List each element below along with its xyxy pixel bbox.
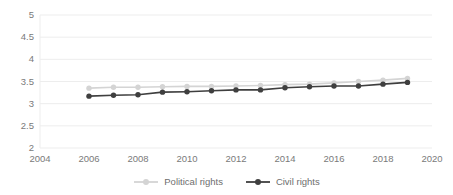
data-point-marker xyxy=(331,83,336,88)
y-axis-tick-label: 4 xyxy=(0,54,34,64)
x-axis-tick-label: 2010 xyxy=(165,154,209,164)
x-axis-tick-label: 2006 xyxy=(67,154,111,164)
data-point-marker xyxy=(258,87,263,92)
x-axis-tick-label: 2014 xyxy=(263,154,307,164)
data-point-marker xyxy=(135,92,140,97)
y-axis-tick-label: 5 xyxy=(0,10,34,20)
line-chart: 22.533.544.55 20042006200820102012201420… xyxy=(0,0,453,195)
x-axis-tick-label: 2016 xyxy=(312,154,356,164)
x-axis-tick-label: 2012 xyxy=(214,154,258,164)
data-point-marker xyxy=(160,89,165,94)
legend-label: Political rights xyxy=(164,177,223,187)
data-point-marker xyxy=(160,84,165,89)
data-point-marker xyxy=(86,85,91,90)
data-point-marker xyxy=(111,93,116,98)
chart-canvas xyxy=(0,0,453,195)
data-point-marker xyxy=(405,80,410,85)
data-point-marker xyxy=(209,88,214,93)
data-point-marker xyxy=(184,89,189,94)
legend-marker-icon xyxy=(133,173,159,191)
x-axis-tick-label: 2008 xyxy=(116,154,160,164)
x-axis-tick-label: 2018 xyxy=(361,154,405,164)
data-point-marker xyxy=(86,93,91,98)
x-axis-tick-label: 2004 xyxy=(18,154,62,164)
data-point-marker xyxy=(135,85,140,90)
legend-marker-icon xyxy=(245,173,271,191)
y-axis-tick-label: 2.5 xyxy=(0,121,34,131)
x-axis-tick-label: 2020 xyxy=(410,154,453,164)
chart-legend: Political rightsCivil rights xyxy=(0,173,453,191)
legend-label: Civil rights xyxy=(276,177,320,187)
data-point-marker xyxy=(111,85,116,90)
y-axis-tick-label: 3 xyxy=(0,99,34,109)
legend-item[interactable]: Political rights xyxy=(133,173,223,191)
data-point-marker xyxy=(356,83,361,88)
data-point-marker xyxy=(233,87,238,92)
y-axis-tick-label: 3.5 xyxy=(0,77,34,87)
y-axis-tick-label: 4.5 xyxy=(0,32,34,42)
y-axis-tick-label: 2 xyxy=(0,143,34,153)
data-point-marker xyxy=(307,84,312,89)
data-point-marker xyxy=(380,81,385,86)
legend-item[interactable]: Civil rights xyxy=(245,173,320,191)
data-point-marker xyxy=(282,85,287,90)
series-layer xyxy=(86,76,410,99)
data-point-marker xyxy=(184,84,189,89)
